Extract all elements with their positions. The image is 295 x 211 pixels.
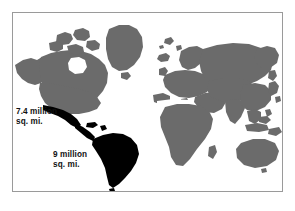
- south-area-label: 9 million sq. mi.: [53, 150, 87, 170]
- map-frame: 7.4 million sq. mi. 9 million sq. mi.: [12, 12, 283, 192]
- north-area-label: 7.4 million sq. mi.: [16, 107, 57, 127]
- map-figure: 7.4 million sq. mi. 9 million sq. mi.: [0, 0, 295, 211]
